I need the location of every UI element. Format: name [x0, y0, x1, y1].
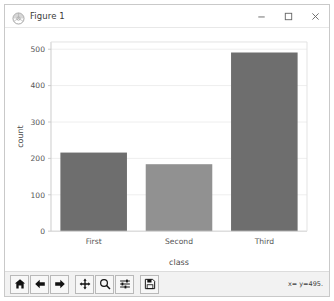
y-tick-label: 200: [31, 154, 46, 163]
back-button[interactable]: [30, 275, 49, 294]
bar-chart: 0100200300400500 FirstSecondThird class …: [5, 28, 329, 271]
zoom-button[interactable]: [95, 275, 114, 294]
maximize-button[interactable]: [275, 5, 302, 27]
bar-second: [146, 164, 213, 231]
configure-subplots-button[interactable]: [115, 275, 134, 294]
pan-button[interactable]: [75, 275, 94, 294]
move-cross-icon: [79, 278, 91, 290]
y-axis-label: count: [16, 125, 25, 147]
y-tick-label: 100: [31, 191, 46, 200]
close-button[interactable]: [302, 5, 329, 27]
matplotlib-icon: [12, 10, 25, 23]
arrow-right-icon: [54, 278, 66, 290]
arrow-left-icon: [34, 278, 46, 290]
window-titlebar: Figure 1: [5, 5, 329, 28]
window-title: Figure 1: [30, 11, 65, 21]
y-tick-label: 400: [31, 82, 46, 91]
bar-first: [60, 153, 127, 232]
x-axis-label: class: [169, 258, 189, 267]
magnifier-icon: [99, 278, 111, 290]
forward-button[interactable]: [50, 275, 69, 294]
x-tick-label: Second: [165, 237, 193, 246]
save-button[interactable]: [140, 275, 159, 294]
home-button[interactable]: [10, 275, 29, 294]
x-tick-label: First: [86, 237, 102, 246]
coordinate-readout: x= y=495.: [288, 280, 323, 288]
y-tick-label: 300: [31, 118, 46, 127]
floppy-disk-icon: [144, 278, 156, 290]
x-tick-label: Third: [254, 237, 275, 246]
bar-third: [231, 52, 298, 231]
figure-window: Figure 1 0100200300400500: [4, 4, 330, 297]
home-icon: [14, 278, 26, 290]
minimize-button[interactable]: [248, 5, 275, 27]
navigation-toolbar: x= y=495.: [5, 271, 329, 296]
y-tick-label: 0: [40, 227, 45, 236]
figure-canvas[interactable]: 0100200300400500 FirstSecondThird class …: [5, 28, 329, 271]
y-tick-label: 500: [31, 45, 46, 54]
sliders-icon: [119, 278, 131, 290]
